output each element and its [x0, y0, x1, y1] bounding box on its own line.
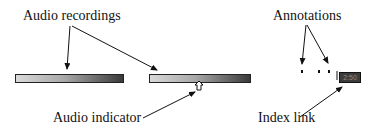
arrow-icon: [143, 92, 195, 118]
arrow-icon: [67, 26, 70, 69]
arrow-icon: [300, 87, 342, 117]
arrow-icon: [307, 25, 328, 63]
arrows-overlay: [0, 0, 376, 131]
arrow-icon: [302, 25, 306, 64]
arrow-icon: [72, 26, 157, 70]
audio-indicator-icon: [195, 81, 203, 90]
